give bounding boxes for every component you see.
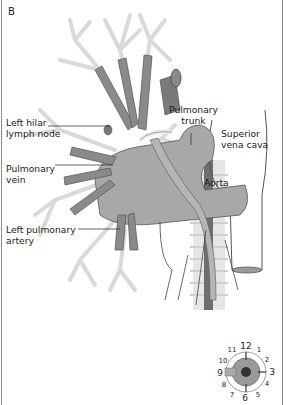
dial-number-2: 2 [265,356,269,364]
dial-number-3: 3 [269,367,275,377]
dial-number-12: 12 [240,341,251,351]
label-left-hilar-lymph-node: Left hilar lymph node [6,117,60,139]
dial-number-7: 7 [230,391,234,399]
label-aorta: Aorta [204,177,229,188]
label-pulmonary-trunk: Pulmonary trunk [169,104,218,126]
dial-number-10: 10 [219,357,228,365]
dial-number-8: 8 [222,381,226,389]
dial-number-1: 1 [257,346,261,354]
vessel-cut-end [171,69,181,87]
dial-number-11: 11 [228,346,237,354]
label-left-pulmonary-artery: Left pulmonary artery [6,224,76,246]
dial-number-5: 5 [256,391,260,399]
clock-dial [225,352,266,392]
dial-number-6: 6 [242,393,248,403]
dial-indicator [225,368,236,376]
dial-number-4: 4 [265,380,269,388]
left-hilar-lymph-node [104,125,112,135]
label-pulmonary-vein: Pulmonary vein [6,163,55,185]
label-superior-vena-cava: Superior vena cava [221,128,268,150]
dial-number-9: 9 [217,368,223,378]
